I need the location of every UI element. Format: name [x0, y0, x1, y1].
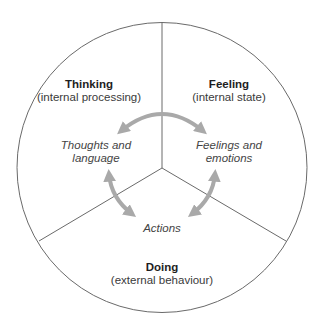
inner-label-feelings: Feelings and [196, 139, 262, 152]
segment-subtitle-thinking: (internal processing) [37, 91, 141, 104]
arrow-feeling-doing [192, 174, 215, 214]
inner-label-thoughts-line2: language [72, 152, 119, 165]
segment-title-thinking: Thinking [65, 78, 113, 91]
inner-label-thoughts: Thoughts and [61, 139, 131, 152]
inner-label-actions: Actions [143, 222, 181, 235]
segment-title-feeling: Feeling [209, 78, 249, 91]
segment-title-doing: Doing [146, 261, 179, 274]
arrow-thinking-doing [109, 174, 132, 214]
segment-subtitle-feeling: (internal state) [192, 91, 266, 104]
segment-subtitle-doing: (external behaviour) [111, 274, 213, 287]
inner-label-feelings-line2: emotions [206, 152, 253, 165]
